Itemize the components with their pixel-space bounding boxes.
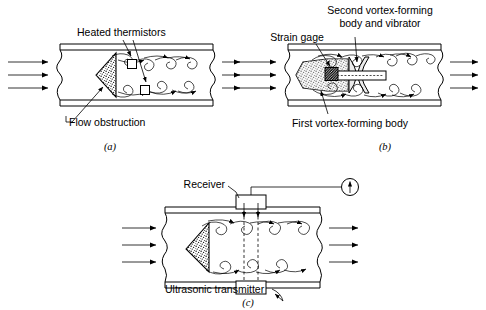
label-ultrasonic-transmitter: Ultrasonic transmitter [165,283,265,295]
label-second-vortex-forming-body-line2: body and vibrator [339,17,421,29]
figure-root: Heated thermistors Flow obstruction (a) [0,0,486,310]
thermistor-sensor-upper [128,60,137,69]
label-first-vortex-forming-body: First vortex-forming body [292,117,409,129]
strain-gage-block [325,68,338,81]
thermistor-sensor-lower [141,86,150,95]
panel-label-a: (a) [104,141,117,153]
label-second-vortex-forming-body-line1: Second vortex-forming [327,4,433,16]
ultrasonic-receiver [236,195,266,209]
label-flow-obstruction: Flow obstruction [69,116,146,128]
panel-label-c: (c) [242,297,254,309]
label-receiver: Receiver [184,178,226,190]
label-strain-gage: Strain gage [270,31,324,43]
label-heated-thermistors: Heated thermistors [77,26,166,38]
vortex-flowmeter-figure: Heated thermistors Flow obstruction (a) [0,0,486,310]
panel-label-b: (b) [379,141,392,153]
